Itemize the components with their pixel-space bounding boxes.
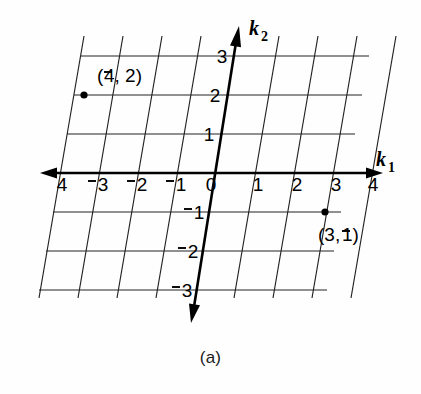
y-tick-label-2: 2 bbox=[210, 85, 221, 106]
x-tick-label-3: 3 bbox=[331, 174, 342, 195]
x-tick-labels: 4 3 2 1 0 1 2 3 4 bbox=[57, 174, 379, 195]
k2-label-base: k bbox=[249, 17, 259, 39]
data-point-3-neg1[interactable] bbox=[321, 208, 328, 215]
x-tick-label-neg1: 1 bbox=[176, 174, 187, 195]
grid-line-x1 bbox=[234, 36, 279, 298]
x-tick-label-0: 0 bbox=[206, 174, 217, 195]
point-label-neg4-2-coords: 4, 2) bbox=[104, 65, 142, 86]
k1-label-base: k bbox=[376, 148, 386, 170]
k1-axis-left-arrow bbox=[40, 168, 57, 179]
data-point-neg4-2[interactable] bbox=[80, 91, 87, 98]
oblique-coordinate-plot: 4 3 2 1 0 1 2 3 4 3 2 bbox=[0, 0, 421, 394]
y-tick-label-neg2: 2 bbox=[188, 241, 199, 262]
x-tick-label-neg2: 2 bbox=[137, 174, 148, 195]
x-tick-label-1: 1 bbox=[253, 174, 264, 195]
axis-name-k1: k 1 bbox=[376, 148, 395, 175]
k2-axis-bottom-arrow bbox=[189, 304, 200, 324]
grid-line-x2 bbox=[273, 36, 318, 298]
point-label-3-neg1-text: (3, bbox=[318, 224, 340, 245]
k2-axis-top-arrow bbox=[230, 26, 241, 47]
y-tick-label-3: 3 bbox=[217, 46, 228, 67]
figure-caption: (a) bbox=[0, 348, 421, 368]
point-label-3-neg1-coords: 1) bbox=[342, 224, 359, 245]
grid-line-x-neg4 bbox=[39, 36, 84, 298]
x-tick-label-neg4: 4 bbox=[57, 174, 68, 195]
x-tick-label-4: 4 bbox=[368, 174, 379, 195]
y-tick-label-neg1: 1 bbox=[194, 202, 205, 223]
k1-label-subscript: 1 bbox=[388, 160, 395, 175]
point-label-3-neg1: (3, 1) bbox=[318, 224, 359, 245]
plotted-points bbox=[80, 91, 328, 215]
x-tick-label-2: 2 bbox=[292, 174, 303, 195]
figure-container: 4 3 2 1 0 1 2 3 4 3 2 bbox=[0, 0, 421, 394]
point-label-neg4-2-text: ( bbox=[97, 65, 104, 86]
y-tick-label-1: 1 bbox=[204, 124, 215, 145]
y-tick-label-neg3: 3 bbox=[182, 280, 193, 301]
axis-name-k2: k 2 bbox=[249, 17, 268, 44]
point-label-neg4-2: ( 4, 2) bbox=[97, 65, 142, 86]
grid-line-x3 bbox=[312, 36, 357, 298]
x-tick-label-neg3: 3 bbox=[98, 174, 109, 195]
k2-label-subscript: 2 bbox=[261, 29, 268, 44]
